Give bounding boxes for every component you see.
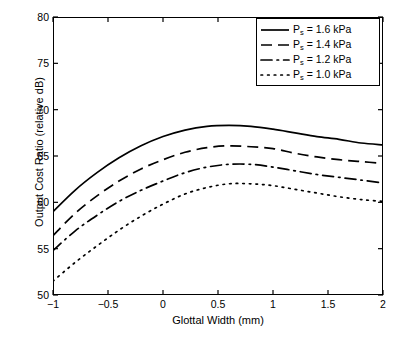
legend-line-sample <box>260 24 290 36</box>
x-tick-label: −1 <box>33 299 73 310</box>
legend-label: Ps = 1.0 kPa <box>290 68 351 82</box>
legend-line-sample <box>260 69 290 81</box>
legend-line-sample <box>260 54 290 66</box>
legend-label: Ps = 1.6 kPa <box>290 23 351 37</box>
legend-item: Ps = 1.2 kPa <box>260 52 375 67</box>
legend-label: Ps = 1.4 kPa <box>290 38 351 52</box>
legend-line-sample <box>260 39 290 51</box>
x-tick-label: −0.5 <box>88 299 128 310</box>
series-line-4 <box>53 183 383 281</box>
legend-item: Ps = 1.0 kPa <box>260 67 375 82</box>
x-tick-label: 0 <box>143 299 183 310</box>
legend-item: Ps = 1.6 kPa <box>260 22 375 37</box>
legend-item: Ps = 1.4 kPa <box>260 37 375 52</box>
x-tick-label: 1 <box>253 299 293 310</box>
y-tick-label: 80 <box>23 12 49 23</box>
chart-figure: 50556065707580 −1−0.500.511.52 Glottal W… <box>0 0 413 337</box>
y-axis-title: Output Cost Ratio (relative dB) <box>33 27 45 277</box>
x-tick-label: 1.5 <box>308 299 348 310</box>
series-line-1 <box>53 125 383 211</box>
series-line-2 <box>53 146 383 236</box>
x-axis-title: Glottal Width (mm) <box>53 314 383 326</box>
x-axis-tick-labels: −1−0.500.511.52 <box>53 299 383 315</box>
legend: Ps = 1.6 kPaPs = 1.4 kPaPs = 1.2 kPaPs =… <box>256 18 380 86</box>
x-tick-label: 2 <box>363 299 403 310</box>
series-line-3 <box>53 164 383 251</box>
x-tick-label: 0.5 <box>198 299 238 310</box>
legend-label: Ps = 1.2 kPa <box>290 53 351 67</box>
